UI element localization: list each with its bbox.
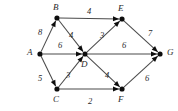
arrowhead-d-g xyxy=(151,52,157,57)
edge-weight-f-g: 6 xyxy=(145,74,149,83)
edge-weight-b-d: 4 xyxy=(69,31,73,40)
node-b xyxy=(54,15,59,20)
node-label-e: E xyxy=(118,4,124,13)
node-a xyxy=(37,51,42,56)
edge-weight-c-d: 3 xyxy=(66,71,70,80)
node-label-b: B xyxy=(53,3,59,12)
edges-layer xyxy=(41,18,158,89)
node-e xyxy=(119,16,124,21)
edge-weight-d-f: 4 xyxy=(105,71,109,80)
arrowhead-a-d xyxy=(76,52,82,57)
node-f xyxy=(119,86,124,91)
edge-weight-e-g: 7 xyxy=(148,29,152,38)
node-label-f: F xyxy=(118,95,124,104)
edge-weight-a-c: 5 xyxy=(38,74,42,83)
node-label-d: D xyxy=(81,60,88,69)
node-c xyxy=(54,86,59,91)
edge-f-g xyxy=(124,56,158,87)
arrowhead-c-f xyxy=(113,87,119,92)
graph-figure: ABCDEFG 865443236476 xyxy=(0,0,178,111)
arrowhead-b-e xyxy=(113,16,119,21)
edge-d-f xyxy=(87,56,120,87)
node-label-c: C xyxy=(53,95,59,104)
node-g xyxy=(157,51,162,56)
edge-weight-d-e: 3 xyxy=(100,31,104,40)
edge-weight-d-g: 6 xyxy=(122,41,126,50)
edge-b-e xyxy=(60,18,119,19)
node-label-a: A xyxy=(27,48,33,57)
node-label-g: G xyxy=(167,48,174,57)
edge-e-g xyxy=(124,21,158,52)
node-d xyxy=(82,51,87,56)
edge-weight-b-e: 4 xyxy=(87,7,91,16)
edge-weight-c-f: 2 xyxy=(88,97,92,106)
edge-weight-a-d: 6 xyxy=(58,41,62,50)
edge-weight-a-b: 8 xyxy=(38,28,42,37)
